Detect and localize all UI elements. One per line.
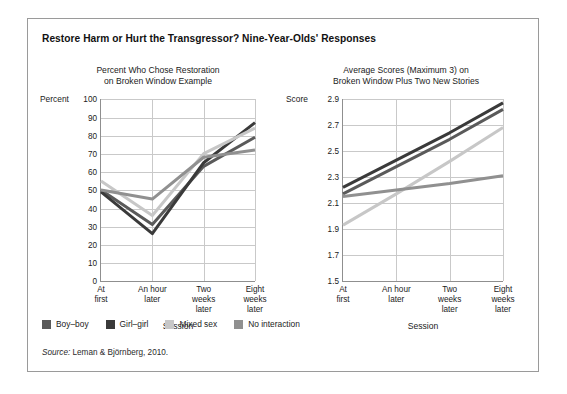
- x-axis-tick-line: later: [181, 305, 227, 315]
- x-axis-tick-label: Eightweekslater: [480, 285, 526, 314]
- x-axis-tick-line: Eight: [232, 285, 278, 295]
- x-axis-tick-line: An hour: [373, 285, 419, 295]
- x-axis-tick-line: Eight: [480, 285, 526, 295]
- legend-item: Boy–boy: [42, 319, 89, 329]
- gridline-vertical: [503, 99, 504, 281]
- chart-title-left-line1: Percent Who Chose Restoration: [58, 65, 258, 76]
- legend-item-label: Mixed sex: [179, 319, 217, 329]
- plot-area-left: 0102030405060708090100AtfirstAn hourlate…: [100, 99, 255, 282]
- y-axis-tick-label: 2.5: [313, 147, 339, 156]
- y-axis-tick-label: 2.1: [313, 199, 339, 208]
- x-axis-tick-label: Atfirst: [78, 285, 124, 304]
- plot-area-right: 1.51.71.92.12.32.52.72.9AtfirstAn hourla…: [342, 99, 503, 282]
- chart-legend: Boy–boyGirl–girlMixed sexNo interaction: [42, 319, 300, 329]
- chart-title-right-line2: Broken Window Plus Two New Stories: [306, 76, 506, 87]
- legend-item: Mixed sex: [165, 319, 217, 329]
- chart-panel-left: Percent Who Chose Restoration on Broken …: [34, 65, 282, 321]
- x-axis-tick-line: weeks: [232, 295, 278, 305]
- chart-panel-right: Average Scores (Maximum 3) on Broken Win…: [280, 65, 532, 321]
- legend-swatch-icon: [234, 320, 243, 329]
- y-axis-tick-label: 1.7: [313, 251, 339, 260]
- gridline-vertical: [255, 99, 256, 281]
- x-axis-tick-line: first: [78, 295, 124, 305]
- chart-title-right: Average Scores (Maximum 3) on Broken Win…: [306, 65, 506, 87]
- y-axis-tick-label: 2.3: [313, 173, 339, 182]
- x-axis-title: Session: [408, 321, 439, 331]
- source-citation: Leman & Björnberg, 2010.: [70, 348, 168, 357]
- figure-title: Restore Harm or Hurt the Transgressor? N…: [42, 33, 376, 44]
- legend-swatch-icon: [42, 320, 51, 329]
- x-axis-tick-line: At: [78, 285, 124, 295]
- series-line: [101, 150, 255, 199]
- y-axis-tick-label: 40: [71, 204, 97, 213]
- series-lines: [101, 99, 255, 281]
- x-axis-tick-line: Two: [427, 285, 473, 295]
- x-axis-tick-label: Twoweekslater: [427, 285, 473, 314]
- x-axis-tick-line: later: [427, 305, 473, 315]
- y-axis-tick-label: 1.9: [313, 225, 339, 234]
- x-axis-tick-line: later: [129, 295, 175, 305]
- legend-item: No interaction: [234, 319, 300, 329]
- plot-wrapper-right: Score 1.51.71.92.12.32.52.72.9AtfirstAn …: [280, 93, 532, 321]
- x-axis-tick-line: later: [232, 305, 278, 315]
- legend-swatch-icon: [165, 320, 174, 329]
- y-axis-tick-label: 60: [71, 168, 97, 177]
- series-line: [343, 103, 503, 187]
- y-axis-tick-label: 100: [71, 95, 97, 104]
- x-axis-tick-line: weeks: [480, 295, 526, 305]
- legend-item-label: Girl–girl: [120, 319, 149, 329]
- y-axis-label-left: Percent: [40, 94, 69, 104]
- chart-title-left: Percent Who Chose Restoration on Broken …: [58, 65, 258, 87]
- figure-frame: Restore Harm or Hurt the Transgressor? N…: [27, 18, 539, 372]
- series-lines: [343, 99, 503, 281]
- series-line: [101, 129, 255, 216]
- source-label: Source:: [42, 348, 70, 357]
- x-axis-tick-line: An hour: [129, 285, 175, 295]
- x-axis-tick-label: An hourlater: [129, 285, 175, 304]
- legend-swatch-icon: [106, 320, 115, 329]
- chart-title-left-line2: on Broken Window Example: [58, 76, 258, 87]
- x-axis-tick-label: An hourlater: [373, 285, 419, 304]
- y-axis-tick-label: 70: [71, 150, 97, 159]
- y-axis-tick-label: 50: [71, 186, 97, 195]
- plot-wrapper-left: Percent 0102030405060708090100AtfirstAn …: [34, 93, 282, 321]
- y-axis-tick-label: 80: [71, 131, 97, 140]
- x-axis-tick-label: Atfirst: [320, 285, 366, 304]
- y-axis-tick-label: 20: [71, 241, 97, 250]
- y-axis-tick-label: 2.7: [313, 121, 339, 130]
- x-axis-tick-line: weeks: [181, 295, 227, 305]
- source-note: Source: Leman & Björnberg, 2010.: [42, 348, 168, 357]
- x-axis-tick-line: Two: [181, 285, 227, 295]
- series-line: [343, 110, 503, 194]
- x-axis-tick-line: At: [320, 285, 366, 295]
- y-axis-tick-label: 10: [71, 259, 97, 268]
- chart-title-right-line1: Average Scores (Maximum 3) on: [306, 65, 506, 76]
- x-axis-tick-line: later: [373, 295, 419, 305]
- y-axis-tick-label: 30: [71, 222, 97, 231]
- x-axis-tick-line: later: [480, 305, 526, 315]
- x-axis-tick-line: first: [320, 295, 366, 305]
- x-axis-tick-label: Twoweekslater: [181, 285, 227, 314]
- y-axis-label-right: Score: [286, 94, 308, 104]
- x-axis-tick-line: weeks: [427, 295, 473, 305]
- legend-item: Girl–girl: [106, 319, 149, 329]
- x-axis-tick-label: Eightweekslater: [232, 285, 278, 314]
- legend-item-label: Boy–boy: [56, 319, 89, 329]
- y-axis-tick-label: 90: [71, 113, 97, 122]
- legend-item-label: No interaction: [248, 319, 300, 329]
- y-axis-tick-label: 2.9: [313, 95, 339, 104]
